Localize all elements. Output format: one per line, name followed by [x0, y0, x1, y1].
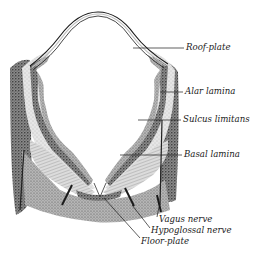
section-illustration — [0, 0, 258, 257]
label-basal-lamina: Basal lamina — [184, 150, 240, 159]
label-vagus-nerve: Vagus nerve — [159, 215, 212, 224]
label-hypoglossal-nerve: Hypoglossal nerve — [151, 226, 232, 235]
medulla-section-diagram: Roof-plate Alar lamina Sulcus limitans B… — [0, 0, 258, 257]
label-sulcus-limitans: Sulcus limitans — [183, 115, 250, 124]
label-alar-lamina: Alar lamina — [185, 87, 235, 96]
label-roof-plate: Roof-plate — [186, 43, 231, 52]
label-floor-plate: Floor-plate — [141, 237, 189, 246]
